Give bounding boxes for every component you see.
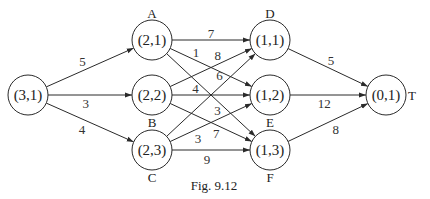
edge-weight-c-d: 6 [216, 68, 223, 83]
figure-caption: Fig. 9.12 [191, 178, 238, 193]
node-d: (1,1)D [250, 6, 290, 61]
edge-weight-a-d: 7 [208, 26, 215, 41]
node-name: D [265, 6, 274, 21]
network-diagram: 5347138476395128 (3,1)(2,1)A(2,2)B(2,3)C… [0, 0, 430, 199]
edge-weight-c-f: 9 [204, 152, 211, 167]
edge-labels-layer: 5347138476395128 [79, 26, 339, 167]
edge-weight-b-d: 8 [215, 48, 222, 63]
node-label: (2,1) [138, 32, 167, 49]
node-name: B [148, 115, 157, 130]
node-name: T [408, 88, 416, 103]
edge-weight-a-f: 3 [214, 103, 221, 118]
edge-weight-s-c: 4 [79, 122, 86, 137]
node-label: (3,1) [14, 87, 43, 104]
node-e: (1,2)E [250, 75, 290, 130]
edge-weight-f-t: 8 [333, 122, 340, 137]
node-name: E [266, 115, 274, 130]
node-name: F [266, 170, 273, 185]
node-t: (0,1)T [366, 75, 416, 115]
node-label: (2,2) [138, 87, 167, 104]
edge-weight-c-e: 3 [195, 131, 202, 146]
edge-s-c [46, 103, 133, 142]
edge-weight-a-e: 1 [193, 45, 200, 60]
node-label: (0,1) [372, 87, 401, 104]
node-label: (2,3) [138, 142, 167, 159]
node-b: (2,2)B [132, 75, 172, 130]
node-c: (2,3)C [132, 130, 172, 185]
node-s: (3,1) [8, 75, 48, 115]
node-label: (1,3) [256, 142, 285, 159]
edge-weight-d-t: 5 [328, 53, 335, 68]
edge-weight-s-a: 5 [79, 54, 86, 69]
node-f: (1,3)F [250, 130, 290, 185]
edge-weight-s-b: 3 [83, 96, 90, 111]
edge-weight-e-t: 12 [318, 96, 331, 111]
edge-weight-b-f: 7 [213, 126, 220, 141]
edge-s-a [46, 48, 133, 87]
edge-weight-b-e: 4 [192, 81, 199, 96]
node-name: C [148, 170, 157, 185]
node-label: (1,2) [256, 87, 285, 104]
node-a: (2,1)A [132, 6, 172, 61]
node-label: (1,1) [256, 32, 285, 49]
node-name: A [147, 6, 157, 21]
